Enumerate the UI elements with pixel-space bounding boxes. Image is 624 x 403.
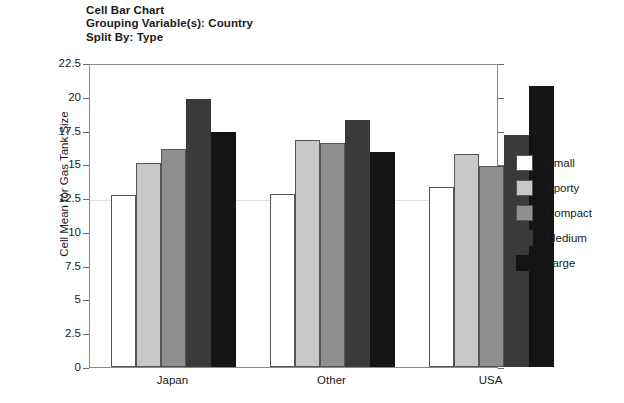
y-axis-tick-label: 0 — [35, 362, 81, 374]
legend: SmallSportyCompactMediumLarge — [516, 150, 616, 275]
bar — [161, 149, 186, 367]
chart-title-line-1: Cell Bar Chart — [86, 4, 253, 17]
chart-title-line-3: Split By: Type — [86, 31, 253, 44]
bar — [186, 99, 211, 367]
y-axis-tick-label: 17.5 — [35, 126, 81, 138]
y-axis-tick-mark — [83, 368, 89, 369]
y-axis-tick-mark-right — [498, 98, 504, 99]
legend-item: Compact — [516, 200, 616, 225]
legend-swatch — [516, 255, 533, 271]
bar — [111, 195, 136, 367]
bar — [429, 187, 454, 367]
legend-item: Medium — [516, 225, 616, 250]
y-axis-tick-mark-right — [498, 368, 504, 369]
bar — [345, 120, 370, 367]
y-axis-tick-label: 22.5 — [35, 58, 81, 70]
bar — [211, 132, 236, 367]
y-axis-tick-label: 10 — [35, 227, 81, 239]
bar — [295, 140, 320, 367]
legend-swatch — [516, 230, 533, 246]
legend-label: Small — [546, 157, 575, 169]
legend-label: Sporty — [546, 182, 579, 194]
legend-label: Large — [546, 257, 575, 269]
chart-title-block: Cell Bar Chart Grouping Variable(s): Cou… — [86, 4, 253, 44]
y-axis-tick-mark-right — [498, 64, 504, 65]
bar — [270, 194, 295, 367]
y-axis-tick-labels: 02.557.51012.51517.52022.5 — [29, 0, 81, 403]
cell-bar-chart: Cell Bar Chart Grouping Variable(s): Cou… — [0, 0, 624, 403]
legend-item: Small — [516, 150, 616, 175]
legend-item: Large — [516, 250, 616, 275]
y-axis-tick-mark-right — [498, 132, 504, 133]
legend-label: Medium — [546, 232, 587, 244]
y-axis-tick-label: 15 — [35, 159, 81, 171]
bar — [136, 163, 161, 367]
x-axis-group-label: Japan — [110, 374, 235, 386]
bar — [320, 143, 345, 367]
bar — [454, 154, 479, 367]
y-axis-tick-label: 7.5 — [35, 261, 81, 273]
x-axis-group-label: USA — [428, 374, 553, 386]
bar — [370, 152, 395, 367]
y-axis-tick-label: 12.5 — [35, 193, 81, 205]
legend-swatch — [516, 155, 533, 171]
chart-title-line-2: Grouping Variable(s): Country — [86, 17, 253, 30]
y-axis-tick-label: 20 — [35, 92, 81, 104]
y-axis-tick-label: 2.5 — [35, 328, 81, 340]
legend-swatch — [516, 205, 533, 221]
plot-area — [89, 64, 498, 368]
y-axis-tick-label: 5 — [35, 294, 81, 306]
legend-item: Sporty — [516, 175, 616, 200]
x-axis-group-label: Other — [269, 374, 394, 386]
bar — [479, 166, 504, 367]
legend-label: Compact — [546, 207, 592, 219]
legend-swatch — [516, 180, 533, 196]
